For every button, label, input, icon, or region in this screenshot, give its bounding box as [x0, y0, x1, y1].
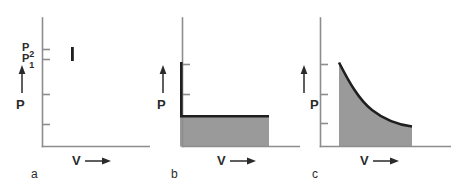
volume-arrow-head	[247, 158, 256, 165]
pv-diagram-figure: P V P2 P1 a P V b	[0, 0, 451, 189]
panel-c-plot	[300, 0, 451, 189]
x-axis-label-b: V	[217, 154, 226, 167]
y-axis-label-c: P	[310, 98, 319, 111]
panel-b: P V b	[150, 0, 300, 189]
x-axis-label-a: V	[72, 154, 81, 167]
pressure-level-p1: P1	[22, 53, 34, 67]
panel-a: P V P2 P1 a	[0, 0, 150, 189]
pressure-level-p1-subscript: 1	[29, 60, 34, 70]
volume-arrow-head	[102, 158, 111, 165]
irreversible-expansion-curve	[181, 62, 269, 116]
x-axis-label-c: V	[360, 154, 369, 167]
panel-label-b: b	[171, 168, 178, 180]
y-axis-label-b: P	[157, 98, 166, 111]
volume-arrow-head	[390, 158, 399, 165]
panel-label-c: c	[312, 168, 318, 180]
work-area-shaded-rect	[180, 116, 269, 147]
panel-label-a: a	[31, 168, 38, 180]
y-axis-label-a: P	[16, 98, 25, 111]
state-point-i-mark	[71, 47, 74, 61]
pressure-arrow-head	[301, 65, 308, 74]
pressure-arrow-head	[160, 65, 167, 74]
panel-c: P V c	[300, 0, 451, 189]
work-area-shaded-under-curve	[339, 63, 412, 147]
